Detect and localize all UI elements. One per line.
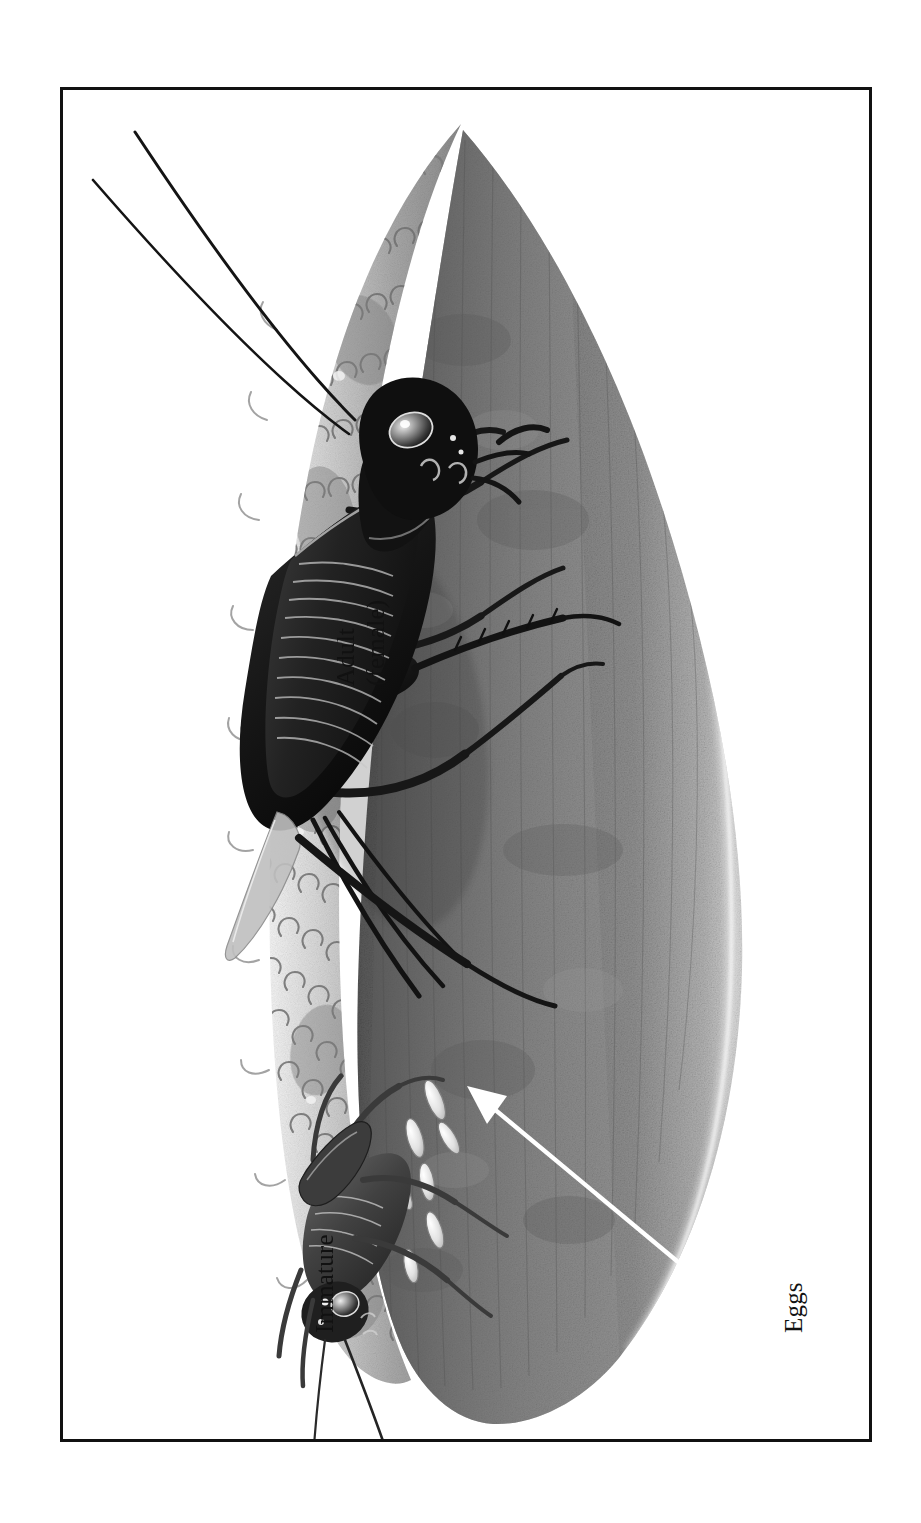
antennae — [93, 132, 355, 434]
artwork-canvas — [63, 90, 869, 1439]
label-eggs: Eggs — [779, 1282, 809, 1333]
label-adult-line1: Adult — [331, 600, 361, 686]
label-adult-line2: (female) — [361, 600, 391, 686]
illustration-page: Adult (female) Immature Eggs — [0, 0, 921, 1523]
plate-frame: Adult (female) Immature Eggs — [60, 87, 872, 1442]
label-immature: Immature — [310, 1234, 340, 1333]
label-adult-female: Adult (female) — [331, 600, 390, 686]
cricket-life-cycle-illustration — [63, 90, 869, 1439]
